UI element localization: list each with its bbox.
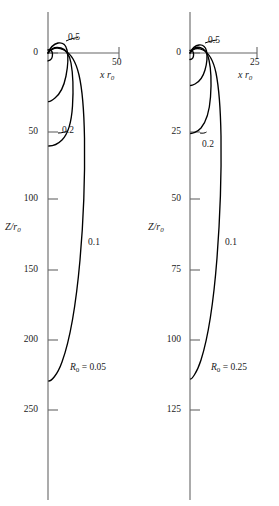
x-axis-label-right-sub: 0 [249, 74, 253, 82]
curve-label-right-0.2: 0.2 [202, 140, 214, 150]
curve-label-left-0.1: 0.1 [88, 238, 100, 248]
plot-right-svg [145, 0, 279, 506]
figure-container: 0 50 100 150 200 250 Z/r0 50 x r0 0.5 0.… [0, 0, 279, 506]
y-tick-label-right-0: 0 [159, 48, 181, 58]
y-axis-ticks-left [48, 53, 58, 410]
x-axis-label-left: x r0 [100, 70, 114, 82]
y-axis-label-left-sub: 0 [17, 226, 21, 234]
y-tick-label-right-50: 50 [159, 194, 181, 204]
y-axis-label-right: Z/r0 [148, 222, 164, 234]
plot-left-svg [0, 0, 145, 506]
curve-0.1-left [48, 48, 85, 381]
y-tick-label-left-100: 100 [12, 194, 38, 204]
y-tick-label-right-100: 100 [154, 335, 181, 345]
y-tick-label-right-75: 75 [159, 265, 181, 275]
x-axis-label-left-main: x r [100, 69, 111, 80]
x-tick-label-left-end: 50 [112, 58, 122, 68]
y-tick-label-left-250: 250 [12, 405, 38, 415]
y-tick-label-left-200: 200 [12, 335, 38, 345]
r0-annotation-left: R0 = 0.05 [70, 363, 106, 374]
curve-label-left-0.5: 0.5 [68, 33, 80, 43]
r0-annotation-right: R0 = 0.25 [211, 363, 247, 374]
curve-0.2-right [190, 47, 211, 133]
curve-0.5-left [48, 43, 68, 102]
leader-line-0.2-right [200, 132, 207, 133]
y-tick-label-right-125: 125 [154, 405, 181, 415]
plot-panel-left: 0 50 100 150 200 250 Z/r0 50 x r0 0.5 0.… [0, 0, 145, 506]
curve-label-left-0.2: 0.2 [62, 126, 74, 136]
y-tick-label-left-50: 50 [16, 127, 38, 137]
y-axis-label-left-main: Z/r [5, 221, 17, 232]
y-axis-label-right-sub: 0 [160, 226, 164, 234]
y-axis-ticks-right [190, 53, 200, 410]
x-axis-label-left-sub: 0 [111, 74, 115, 82]
x-axis-label-right-main: x r [238, 69, 249, 80]
plot-panel-right: 0 25 50 75 100 125 Z/r0 25 x r0 0.5 0.2 … [145, 0, 279, 506]
curve-label-right-0.5: 0.5 [208, 36, 220, 46]
y-tick-label-left-0: 0 [16, 48, 38, 58]
r0-value-left: = 0.05 [79, 362, 106, 372]
curve-0.1-right [190, 49, 221, 379]
y-axis-label-right-main: Z/r [148, 221, 160, 232]
curve-group-left [48, 43, 85, 381]
curve-label-right-0.1: 0.1 [225, 238, 237, 248]
x-axis-label-right: x r0 [238, 70, 252, 82]
y-tick-label-left-150: 150 [12, 265, 38, 275]
y-tick-label-right-25: 25 [159, 127, 181, 137]
x-tick-label-right-end: 25 [250, 58, 260, 68]
r0-value-right: = 0.25 [220, 362, 247, 372]
curve-group-right [190, 45, 221, 379]
y-axis-label-left: Z/r0 [5, 222, 21, 234]
